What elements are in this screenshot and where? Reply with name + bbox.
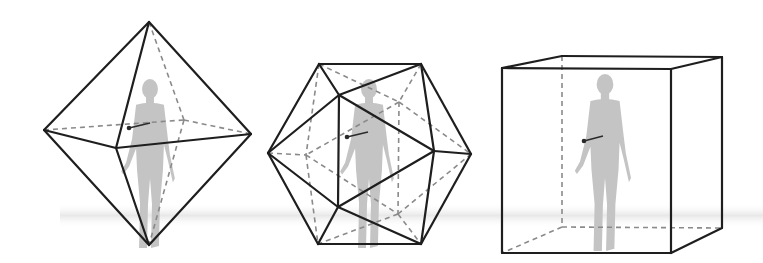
icosahedron-hidden-edge <box>399 102 471 154</box>
cube-pointer-tip-icon <box>582 139 587 144</box>
icosahedron-visible-edge <box>268 95 339 153</box>
icosahedron-hidden-edge <box>306 155 318 244</box>
icosahedron-hidden-edge <box>398 102 399 214</box>
cube-visible-edge <box>562 56 722 57</box>
icosahedron-hidden-edge <box>306 64 319 155</box>
cube-visible-edge <box>502 68 671 69</box>
diagram-canvas <box>0 0 763 263</box>
polyhedra-illustration <box>0 0 763 263</box>
cube-hidden-edge <box>502 227 562 253</box>
icosahedron-hidden-edge <box>268 153 306 155</box>
icosahedron-visible-edge <box>268 153 318 244</box>
icosahedron-visible-edge <box>268 153 338 207</box>
icosahedron-visible-edge <box>268 64 319 153</box>
icosahedron-hidden-edge <box>399 64 421 102</box>
icosahedron-visible-edge <box>434 151 471 154</box>
octahedron-pointer-tip-icon <box>127 126 132 131</box>
icosahedron-visible-edge <box>421 154 471 244</box>
octahedron-visible-edge <box>44 22 149 130</box>
ground-band <box>60 203 763 228</box>
icosahedron-visible-edge <box>338 151 434 207</box>
cube-visible-edge <box>502 56 562 68</box>
cube-visible-edge <box>671 228 722 253</box>
octahedron-visible-edge <box>44 130 116 148</box>
icosahedron-visible-edge <box>339 64 421 95</box>
icosahedron-pointer-tip-icon <box>345 135 350 140</box>
cube-visible-edge <box>671 57 722 69</box>
icosahedron-visible-edge <box>338 95 339 207</box>
